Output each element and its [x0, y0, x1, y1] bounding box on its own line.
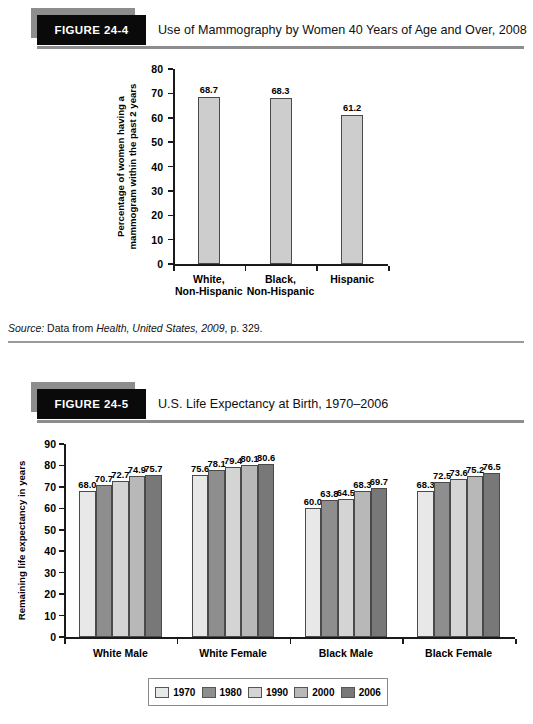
y-tick-label: 30	[137, 186, 163, 196]
bar	[145, 475, 162, 637]
y-tick	[59, 636, 64, 638]
figure-tag-label: FIGURE 24-4	[54, 24, 128, 36]
legend-swatch-2000	[294, 687, 308, 698]
y-tick	[168, 93, 173, 95]
y-tick-label: 70	[137, 88, 163, 98]
legend-label: 2006	[359, 687, 381, 698]
bar	[417, 491, 434, 637]
source-text-before: Data from	[44, 322, 96, 334]
bar	[467, 476, 484, 637]
category-label: Black Male	[291, 647, 401, 659]
figure-rule	[37, 420, 524, 423]
legend-label: 1990	[266, 687, 288, 698]
legend-swatch-2006	[341, 687, 355, 698]
legend-label: 1980	[220, 687, 242, 698]
bar	[79, 491, 96, 637]
life-expectancy-bar-chart: 0102030405060708090Remaining life expect…	[0, 432, 533, 672]
source-note: Source: Data from Health, United States,…	[8, 322, 263, 334]
bar	[258, 464, 275, 637]
bar-value-label: 76.5	[476, 462, 508, 472]
x-tick	[173, 266, 175, 271]
chart-legend: 19701980199020002006	[148, 678, 388, 706]
bar	[270, 98, 292, 264]
bar	[241, 465, 258, 637]
y-tick	[59, 443, 64, 445]
bar	[198, 97, 220, 264]
y-tick-label: 10	[30, 611, 56, 621]
bar-value-label: 80.6	[250, 453, 282, 463]
legend-swatch-1990	[248, 687, 262, 698]
y-tick	[59, 572, 64, 574]
bar	[354, 491, 371, 637]
y-tick	[59, 593, 64, 595]
y-tick-label: 90	[30, 439, 56, 449]
bar	[450, 479, 467, 637]
bar	[371, 488, 388, 637]
category-label: White Female	[178, 647, 288, 659]
bar	[305, 508, 322, 637]
bar	[483, 473, 500, 637]
y-axis-title: Percentage of women having amammogram wi…	[115, 69, 139, 264]
bar-value-label: 61.2	[330, 103, 374, 113]
figure-title-24-5: U.S. Life Expectancy at Birth, 1970–2006	[158, 389, 388, 419]
bar	[225, 467, 242, 637]
y-axis-title-line: Percentage of women having a	[115, 69, 127, 264]
y-tick-label: 0	[137, 259, 163, 269]
bar	[321, 500, 338, 637]
y-axis-line	[64, 444, 66, 638]
y-tick	[59, 465, 64, 467]
x-axis-line	[173, 264, 388, 266]
legend-swatch-1980	[202, 687, 216, 698]
y-tick	[168, 263, 173, 265]
bar	[208, 470, 225, 637]
y-tick-label: 50	[137, 137, 163, 147]
figure-title-24-4: Use of Mammography by Women 40 Years of …	[158, 15, 527, 45]
bar	[341, 115, 363, 264]
y-tick	[168, 166, 173, 168]
y-tick-label: 0	[30, 632, 56, 642]
bar-value-label: 75.7	[137, 464, 169, 474]
legend-swatch-1970	[155, 687, 169, 698]
bar-value-label: 69.7	[363, 477, 395, 487]
category-label-line: Hispanic	[297, 273, 407, 285]
x-tick	[388, 266, 390, 271]
legend-item: 1970	[155, 687, 195, 698]
y-tick-label: 40	[30, 546, 56, 556]
bar	[96, 485, 113, 637]
legend-label: 1970	[173, 687, 195, 698]
bar-value-label: 68.3	[259, 86, 303, 96]
x-tick	[515, 639, 517, 644]
bar	[112, 481, 129, 637]
source-text-after: , p. 329.	[225, 322, 263, 334]
legend-item: 2006	[341, 687, 381, 698]
bar	[338, 499, 355, 637]
x-tick	[177, 639, 179, 644]
source-italic: Health, United States, 2009	[96, 322, 224, 334]
mammography-bar-chart: 01020304050607080Percentage of women hav…	[0, 52, 533, 302]
source-divider	[8, 341, 524, 343]
figure-page: FIGURE 24-4 Use of Mammography by Women …	[0, 0, 533, 724]
category-label: Hispanic	[297, 273, 407, 285]
source-label: Source:	[8, 322, 44, 334]
y-tick	[168, 215, 173, 217]
y-tick-label: 30	[30, 568, 56, 578]
x-tick	[245, 266, 247, 271]
y-tick-label: 80	[30, 460, 56, 470]
y-tick-label: 60	[137, 113, 163, 123]
bar	[434, 482, 451, 637]
y-tick-label: 20	[137, 210, 163, 220]
y-tick-label: 80	[137, 64, 163, 74]
legend-label: 2000	[312, 687, 334, 698]
figure-tag-24-4: FIGURE 24-4	[37, 15, 146, 45]
y-tick	[59, 550, 64, 552]
figure-header-24-5: FIGURE 24-5 U.S. Life Expectancy at Birt…	[0, 378, 533, 424]
category-label: White Male	[65, 647, 175, 659]
y-tick	[168, 239, 173, 241]
category-label: Black Female	[404, 647, 514, 659]
y-tick	[59, 615, 64, 617]
bar-value-label: 68.7	[187, 85, 231, 95]
x-tick	[316, 266, 318, 271]
figure-rule	[37, 46, 524, 49]
y-axis-title-line: mammogram within the past 2 years	[127, 69, 139, 264]
bar	[129, 476, 146, 637]
